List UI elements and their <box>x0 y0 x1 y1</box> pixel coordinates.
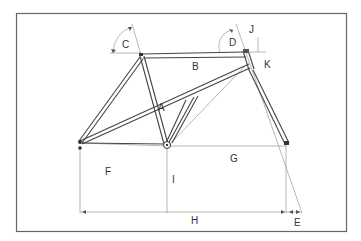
bike-frame-geometry-drawing <box>0 0 361 241</box>
front-dropout <box>284 141 289 145</box>
label-f: F <box>105 167 111 177</box>
frame-tubes <box>79 50 289 144</box>
label-b: B <box>192 62 199 72</box>
label-a: A <box>158 103 165 113</box>
label-i: I <box>172 175 175 185</box>
label-c: C <box>122 40 129 50</box>
rear-axle <box>78 140 82 144</box>
label-d: D <box>229 38 236 48</box>
label-j: J <box>249 25 254 35</box>
label-g: G <box>230 154 238 164</box>
arrowheads <box>82 27 300 214</box>
label-h: H <box>191 216 198 226</box>
label-k: K <box>264 60 271 70</box>
label-e: E <box>294 218 301 228</box>
